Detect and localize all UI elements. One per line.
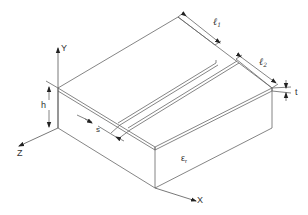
l2-subscript: 2 — [263, 61, 267, 68]
diagram-canvas — [0, 0, 308, 215]
permittivity-label: εr — [181, 154, 187, 164]
x-axis — [155, 188, 196, 201]
substrate-box — [58, 17, 272, 188]
t-label: t — [295, 88, 298, 97]
z-axis — [19, 128, 58, 146]
s-label: s — [96, 126, 100, 134]
x-axis-label: X — [197, 196, 203, 205]
dimension-t — [272, 80, 291, 101]
l1-label: ℓ1 — [213, 17, 221, 28]
dimension-h — [46, 81, 58, 128]
strip-2 — [128, 61, 272, 150]
strip-1 — [58, 11, 218, 150]
l1-subscript: 1 — [217, 21, 221, 28]
dimension-l2 — [236, 55, 278, 88]
l2-label: ℓ2 — [259, 57, 267, 68]
axes — [19, 48, 196, 201]
h-label: h — [41, 101, 46, 110]
y-axis-label: Y — [61, 44, 67, 53]
epsilon-subscript: r — [185, 158, 187, 164]
z-axis-label: Z — [17, 149, 23, 158]
